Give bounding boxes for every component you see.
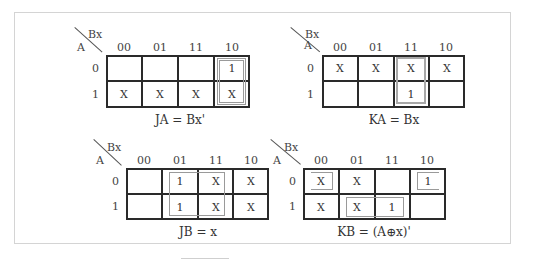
cell: X [393,55,429,81]
cell [142,55,178,81]
col-label: 10 [233,155,269,167]
col-label: 00 [322,42,358,54]
cell: X [142,81,178,107]
row-variable-label: A [304,40,312,52]
equation-label: JA = Bx' [140,113,220,127]
cell: X [198,168,234,194]
cell [410,194,446,220]
cell: X [339,194,375,220]
col-label: 00 [126,155,162,167]
cell: 1 [393,81,429,107]
cell: X [214,81,250,107]
col-label: 01 [162,155,198,167]
cell: X [233,168,269,194]
cell: X [339,168,375,194]
cell [106,55,142,81]
row-label: 1 [107,201,119,213]
equation-label: KA = Bx [354,113,434,127]
cell: 1 [214,55,250,81]
row-label: 0 [107,176,119,188]
col-variable-label: Bx [107,142,121,154]
col-label: 10 [428,42,464,54]
equation-label: KB = (A⊕x)' [334,225,414,239]
cell: X [322,55,358,81]
cell [322,81,358,107]
cell: X [198,194,234,220]
cell [358,81,394,107]
col-label: 01 [339,155,375,167]
col-label: 11 [374,155,410,167]
col-label: 00 [106,42,142,54]
col-label: 01 [142,42,178,54]
cell: X [303,168,339,194]
cell: X [178,81,214,107]
row-variable-label: A [273,155,281,167]
row-label: 1 [87,89,99,101]
row-label: 1 [302,89,314,101]
cell: 1 [162,194,198,220]
col-label: 10 [409,155,445,167]
cell: X [233,194,269,220]
col-label: 11 [393,42,429,54]
cell [374,168,410,194]
cell [126,168,162,194]
row-label: 0 [284,176,296,188]
col-variable-label: Bx [88,29,102,41]
col-label: 11 [198,155,234,167]
row-label: 0 [87,63,99,75]
cell [126,194,162,220]
row-label: 1 [284,201,296,213]
cell [178,55,214,81]
cell: X [106,81,142,107]
cell: 1 [162,168,198,194]
col-label: 10 [214,42,250,54]
cell: 1 [374,194,410,220]
col-label: 00 [303,155,339,167]
row-variable-label: A [77,42,85,54]
col-label: 01 [358,42,394,54]
cell: 1 [410,168,446,194]
equation-label: JB = x [162,225,234,239]
row-variable-label: A [96,155,104,167]
cell [429,81,465,107]
cell: X [429,55,465,81]
col-variable-label: Bx [284,142,298,154]
cell: X [358,55,394,81]
col-label: 11 [178,42,214,54]
cell: X [303,194,339,220]
decorative-underline [181,258,229,259]
row-label: 0 [302,63,314,75]
